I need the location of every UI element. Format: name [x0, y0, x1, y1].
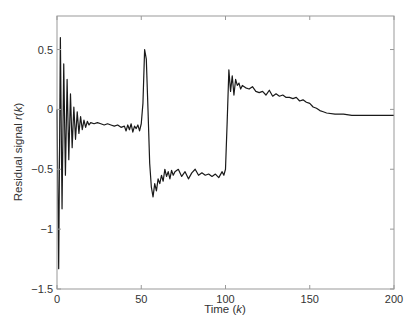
x-tick-label: 200: [385, 293, 403, 305]
x-tick-label: 50: [135, 293, 147, 305]
x-tick-label: 150: [301, 293, 319, 305]
y-tick-label: 0.5: [38, 44, 53, 56]
y-tick-label: −1: [40, 223, 53, 235]
x-axis-label: Time (k): [204, 303, 246, 315]
y-tick-label: −0.5: [31, 163, 53, 175]
y-tick-label: −1.5: [31, 283, 53, 295]
residual-signal-chart: 050100150200 −1.5−1−0.500.5 Time (k) Res…: [0, 0, 419, 332]
y-axis-label: Residual signal r(k): [12, 103, 24, 202]
x-tick-label: 0: [54, 293, 60, 305]
y-tick-label: 0: [47, 103, 53, 115]
